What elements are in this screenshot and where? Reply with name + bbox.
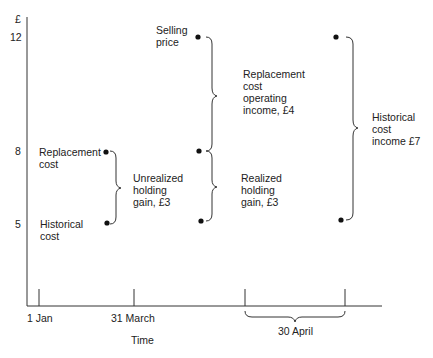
y-tick-12: 12: [10, 31, 22, 43]
point-selling-price-april: [195, 34, 200, 39]
y-axis-unit-label: £: [15, 13, 21, 25]
x-tick-1-jan: 1 Jan: [27, 312, 53, 324]
brace-historical-cost-income: [346, 37, 358, 220]
annotation-replacement-cost-operating-income: Replacement cost operating income, £4: [243, 68, 305, 116]
diagram-canvas: [0, 0, 433, 358]
x-tick-31-march: 31 March: [111, 312, 155, 324]
y-tick-8: 8: [15, 145, 21, 157]
x-axis-title: Time: [131, 334, 154, 346]
point-historical-cost: [104, 220, 109, 225]
point-selling-price-right: [333, 34, 338, 39]
annotation-historical-cost-income: Historical cost income £7: [372, 111, 420, 147]
annotation-realized-holding-gain: Realized holding gain, £3: [241, 172, 282, 208]
brace-unrealized-holding-gain: [110, 151, 121, 224]
point-historical-cost-right: [338, 217, 343, 222]
label-historical-cost: Historical cost: [40, 218, 83, 242]
x-tick-30-april: 30 April: [278, 325, 313, 337]
label-replacement-cost: Replacement cost: [39, 146, 101, 170]
brace-replacement-cost-operating-income: [206, 37, 217, 151]
annotation-unrealized-holding-gain: Unrealized holding gain, £3: [133, 172, 183, 208]
point-historical-cost-april: [198, 218, 203, 223]
point-replacement-cost-april: [196, 148, 201, 153]
label-selling-price: Selling price: [156, 24, 188, 48]
point-replacement-cost: [103, 149, 108, 154]
brace-realized-holding-gain: [206, 151, 217, 221]
brace-30-april: [245, 311, 345, 322]
y-tick-5: 5: [15, 218, 21, 230]
